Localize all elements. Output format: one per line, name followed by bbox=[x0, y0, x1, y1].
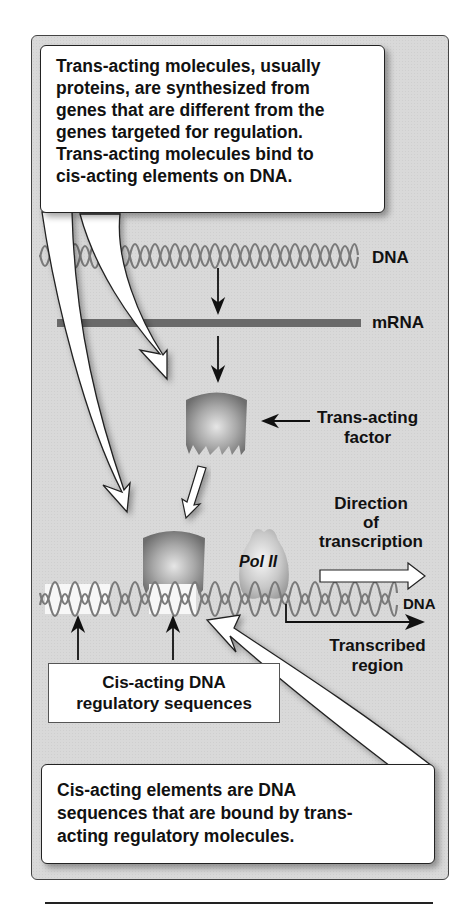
cis-acting-sequences-label-box: Cis-acting DNA regulatory sequences bbox=[48, 663, 280, 723]
label-line: regulatory sequences bbox=[49, 693, 279, 714]
direction-of-transcription-label: Direction of transcription bbox=[305, 494, 437, 551]
callout-line: genes that are different from the bbox=[56, 99, 384, 121]
label-line: factor bbox=[305, 428, 430, 448]
callout-line: Cis-acting elements are DNA bbox=[57, 779, 434, 802]
mrna-label: mRNA bbox=[372, 313, 424, 333]
callout-line: Trans-acting molecules bind to bbox=[56, 143, 384, 165]
transcribed-region-label: Transcribed region bbox=[315, 636, 440, 676]
dna-helix-top bbox=[40, 244, 358, 268]
label-line: of bbox=[305, 513, 437, 532]
trans-acting-explanation-callout: Trans-acting molecules, usually proteins… bbox=[40, 45, 385, 213]
callout-line: sequences that are bound by trans- bbox=[57, 802, 434, 825]
callout-line: proteins, are synthesized from bbox=[56, 77, 384, 99]
pol-ii-label: Pol II bbox=[239, 553, 277, 571]
label-line: Cis-acting DNA bbox=[49, 672, 279, 693]
bottom-divider-rule bbox=[45, 902, 433, 904]
label-line: region bbox=[315, 656, 440, 676]
callout-line: cis-acting elements on DNA. bbox=[56, 165, 384, 187]
trans-acting-factor-label: Trans-acting factor bbox=[305, 408, 430, 448]
callout-pointer-arrows bbox=[42, 212, 167, 512]
label-line: Trans-acting bbox=[305, 408, 430, 428]
label-line: Direction bbox=[305, 494, 437, 513]
label-line: transcription bbox=[305, 532, 437, 551]
cis-acting-explanation-callout: Cis-acting elements are DNA sequences th… bbox=[41, 764, 435, 864]
callout-line: genes targeted for regulation. bbox=[56, 121, 384, 143]
binding-arrow-icon bbox=[182, 466, 206, 518]
cis-element-region-1 bbox=[45, 584, 110, 614]
trans-acting-factor-protein bbox=[186, 393, 247, 456]
label-line: Transcribed bbox=[315, 636, 440, 656]
mrna-bar bbox=[57, 319, 361, 327]
dna-top-label: DNA bbox=[372, 248, 409, 268]
dna-bottom-label: DNA bbox=[403, 594, 436, 614]
callout-line: acting regulatory molecules. bbox=[57, 825, 434, 848]
callout-line: Trans-acting molecules, usually bbox=[56, 55, 384, 77]
